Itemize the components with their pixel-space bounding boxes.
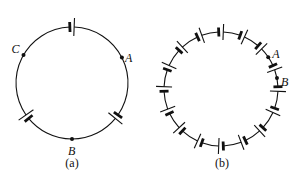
battery-icon: [156, 86, 172, 91]
node-point-a: [266, 55, 270, 59]
battery-icon: [194, 134, 203, 149]
panel-a-ring-circuit: ABC: [12, 18, 133, 158]
wire-arc: [223, 32, 240, 35]
wire-arc: [182, 37, 197, 47]
circuit-diagram: ABC AB (a) (b): [0, 0, 296, 181]
wire-arc: [244, 37, 258, 46]
wire-arc: [245, 131, 259, 141]
node-label-a: A: [124, 51, 133, 65]
wire-arc: [169, 113, 179, 127]
node-label-a: A: [271, 47, 280, 61]
battery-icon: [108, 112, 122, 124]
battery-icon: [70, 18, 75, 36]
wire-arc: [169, 50, 179, 65]
battery-icon: [219, 24, 224, 40]
wire-arc: [74, 27, 128, 115]
wire-arc: [202, 143, 219, 146]
caption-a: (a): [65, 156, 78, 170]
wire-arc: [164, 91, 168, 109]
node-point-b: [70, 137, 74, 141]
wire-arc: [16, 27, 70, 115]
wire-arc: [182, 131, 197, 141]
node-label-c: C: [12, 42, 21, 56]
node-label-b: B: [281, 75, 289, 89]
node-point-c: [22, 53, 26, 57]
battery-icon: [19, 110, 34, 122]
battery-icon: [239, 30, 248, 45]
wire-arc: [275, 91, 278, 108]
wire-arc: [263, 112, 273, 127]
caption-b: (b): [215, 156, 229, 170]
node-point-a: [120, 56, 124, 60]
wire-arc: [29, 118, 116, 139]
wire-arc: [202, 32, 219, 35]
battery-icon: [162, 62, 177, 71]
panel-b-ring-circuit: AB: [156, 24, 289, 154]
node-point-b: [275, 76, 279, 80]
wire-arc: [164, 70, 167, 87]
wire-arc: [223, 142, 241, 146]
battery-icon: [266, 107, 281, 116]
battery-icon: [218, 138, 223, 154]
